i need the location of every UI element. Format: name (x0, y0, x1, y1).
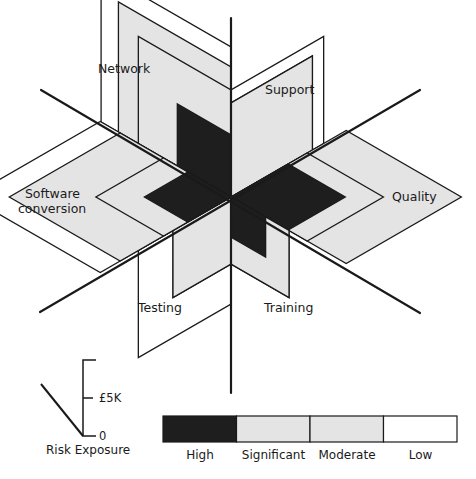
label-software-conversion: Software conversion (18, 186, 80, 216)
label-network: Network (98, 61, 150, 76)
label-software-line1: Software (18, 186, 80, 201)
legend-swatch-high (163, 416, 237, 442)
label-training: Training (264, 300, 313, 315)
legend-swatch-significant (237, 416, 311, 442)
scale-tick-5k: £5K (99, 391, 121, 406)
legend-label-significant: Significant (237, 448, 311, 462)
risk-radar-diagram (0, 0, 476, 479)
legend-swatch-moderate (310, 416, 384, 442)
legend-bar (163, 416, 457, 442)
label-quality: Quality (392, 189, 437, 204)
label-software-line2: conversion (18, 201, 80, 216)
scale-title: Risk Exposure (46, 443, 130, 458)
scale-tick-zero: 0 (99, 429, 106, 444)
legend-label-low: Low (384, 448, 458, 462)
legend-label-high: High (163, 448, 237, 462)
risk-exposure-scale-icon (41, 360, 96, 436)
legend-label-moderate: Moderate (310, 448, 384, 462)
label-support: Support (265, 82, 314, 97)
label-testing: Testing (138, 300, 182, 315)
legend-swatch-low (384, 416, 458, 442)
